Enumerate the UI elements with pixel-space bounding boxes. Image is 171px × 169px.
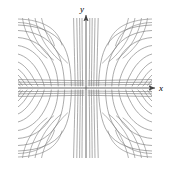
x-axis-label: x (158, 83, 163, 93)
y-axis-label: y (79, 4, 84, 14)
contour-plot-svg: x y (0, 0, 171, 169)
contour-figure: x y (0, 0, 171, 169)
